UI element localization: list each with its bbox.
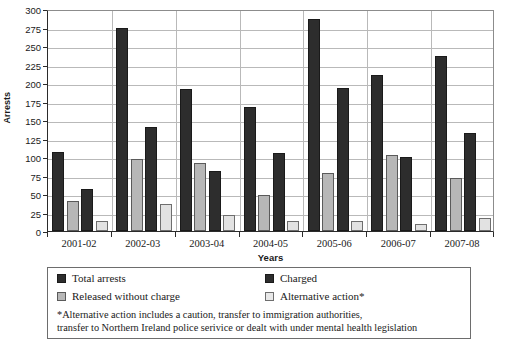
x-axis-tick-label: 2002-03	[125, 238, 160, 249]
legend-footnote-line-1: *Alternative action includes a caution, …	[57, 309, 463, 322]
x-axis-tick-mark	[239, 232, 240, 237]
x-axis-tick-mark	[111, 232, 112, 237]
bar	[371, 75, 383, 231]
y-axis-tick-label: 50	[30, 191, 41, 200]
bar-chart: Arrests 02550751001251501752002252502753…	[0, 0, 505, 262]
bar	[287, 221, 299, 231]
legend-label-charged: Charged	[280, 273, 317, 284]
legend-item-alternative-action: Alternative action*	[265, 291, 365, 302]
bar	[145, 127, 157, 231]
y-axis-tick-label: 275	[25, 24, 41, 33]
x-axis-tick-label: 2006-07	[381, 238, 416, 249]
legend-item-total-arrests: Total arrests	[57, 273, 126, 284]
y-axis-tick-label: 225	[25, 61, 41, 70]
bar	[400, 157, 412, 231]
x-axis-tick-mark	[493, 232, 494, 237]
bar	[180, 89, 192, 231]
bar	[322, 173, 334, 231]
y-axis-tick-label: 75	[30, 172, 41, 181]
bar-group	[303, 11, 367, 231]
bar	[160, 204, 172, 231]
x-axis-tick-label: 2001-02	[61, 238, 96, 249]
plot-area	[47, 10, 494, 232]
legend-footnote-line-2: transfer to Northern Ireland police seri…	[57, 322, 463, 335]
legend-item-charged: Charged	[265, 273, 317, 284]
legend-label-released-without-charge: Released without charge	[72, 291, 180, 302]
bar	[273, 153, 285, 231]
bar-group	[48, 11, 112, 231]
bar-group	[240, 11, 304, 231]
y-axis-tick-label: 25	[30, 209, 41, 218]
x-axis-tick-mark	[47, 232, 48, 237]
y-axis-tick-label: 300	[25, 6, 41, 15]
y-axis-tick-label: 125	[25, 135, 41, 144]
y-axis-tick-label: 100	[25, 154, 41, 163]
bar-series-container	[48, 11, 493, 231]
bar-group	[112, 11, 176, 231]
bar	[244, 107, 256, 231]
x-axis-title: Years	[47, 252, 494, 263]
bar	[450, 178, 462, 231]
bar	[194, 163, 206, 231]
y-axis-tick-label: 0	[36, 228, 41, 237]
bar	[131, 159, 143, 231]
x-axis-tick-mark	[175, 232, 176, 237]
bar	[351, 221, 363, 231]
bar	[337, 88, 349, 231]
legend-items: Total arrests Released without charge Ch…	[57, 273, 461, 307]
legend-item-released-without-charge: Released without charge	[57, 291, 180, 302]
x-axis-tick-label: 2005-06	[317, 238, 352, 249]
bar	[258, 195, 270, 231]
x-axis-tick-mark	[302, 232, 303, 237]
bar	[96, 221, 108, 231]
bar	[415, 224, 427, 231]
bar	[479, 218, 491, 231]
x-axis-tick-label: 2007-08	[445, 238, 480, 249]
bar-group	[431, 11, 495, 231]
bar	[435, 56, 447, 231]
legend-swatch-icon-released-without-charge	[57, 292, 66, 301]
legend-label-alternative-action: Alternative action*	[280, 291, 365, 302]
bar	[209, 171, 221, 231]
y-axis-ticks: 0255075100125150175200225250275300	[14, 0, 44, 240]
bar	[464, 133, 476, 231]
bar	[223, 215, 235, 231]
legend-footnote: *Alternative action includes a caution, …	[57, 309, 463, 334]
legend-swatch-icon-total-arrests	[57, 274, 66, 283]
bar	[308, 19, 320, 231]
y-axis-tick-label: 200	[25, 80, 41, 89]
bar	[386, 155, 398, 231]
y-axis-tick-label: 175	[25, 98, 41, 107]
bar	[67, 201, 79, 231]
x-axis-tick-labels: 2001-022002-032003-042004-052005-062006-…	[47, 238, 494, 252]
x-axis-tick-label: 2003-04	[189, 238, 224, 249]
legend-label-total-arrests: Total arrests	[72, 273, 126, 284]
legend-swatch-icon-alternative-action	[265, 292, 274, 301]
bar	[81, 189, 93, 231]
y-axis-tick-label: 150	[25, 117, 41, 126]
x-axis-tick-label: 2004-05	[253, 238, 288, 249]
y-axis-tick-label: 250	[25, 43, 41, 52]
bar-group	[176, 11, 240, 231]
legend-box: Total arrests Released without charge Ch…	[47, 267, 471, 339]
x-axis-tick-mark	[366, 232, 367, 237]
legend-swatch-icon-charged	[265, 274, 274, 283]
bar	[52, 152, 64, 231]
bar	[116, 28, 128, 231]
x-axis-tick-mark	[430, 232, 431, 237]
bar-group	[367, 11, 431, 231]
